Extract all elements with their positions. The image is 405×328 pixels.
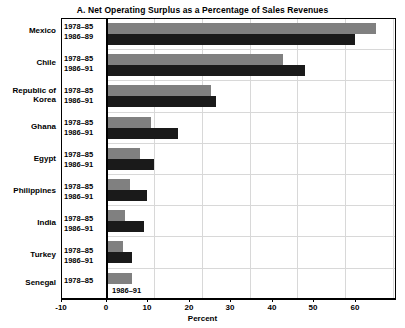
bar-egypt-series2 [106,159,154,170]
chart-title: A. Net Operating Surplus as a Percentage… [0,5,405,15]
x-tick-label-10: 10 [132,303,162,312]
bar-turkey-series1 [106,241,123,252]
category-label-chile: Chile [0,58,56,68]
bar-mexico-series2 [106,34,355,45]
gridline-x-60 [393,19,394,298]
category-label-mexico: Mexico [0,26,56,36]
category-label-turkey: Turkey [0,250,56,260]
category-label-india: India [0,218,56,228]
period-label-ghana-2: 1986–91 [64,128,93,138]
x-tick-label-0: 0 [91,303,121,312]
period-label-senegal-2: 1986–91 [112,286,141,295]
gridline-row-india [106,205,395,206]
x-tick-label--10: -10 [46,303,76,312]
period-label-philippines-1: 1978–85 [64,182,93,192]
x-tick-30 [230,299,231,302]
zero-axis-line [106,18,108,299]
period-label-ghana-1: 1978–85 [64,118,93,128]
period-label-india-2: 1986–91 [64,224,93,234]
period-label-chile-2: 1986–91 [64,64,93,74]
x-tick-60 [355,299,356,302]
period-label-turkey-1: 1978–85 [64,246,93,256]
period-label-egypt-1: 1978–85 [64,150,93,160]
period-label-chile-1: 1978–85 [64,54,93,64]
bar-turkey-series2 [106,252,132,263]
x-tick-label-50: 50 [298,303,328,312]
gridline-row-philippines [106,174,395,175]
plot-area [106,18,396,299]
bar-ghana-series2 [106,128,178,139]
x-tick-50 [313,299,314,302]
period-label-senegal-1: 1978–85 [64,276,93,286]
bar-senegal-series1 [106,273,132,284]
bar-mexico-series1 [106,23,376,34]
bar-india-series1 [106,210,125,221]
category-label-egypt: Egypt [0,154,56,164]
x-axis-title: Percent [0,314,405,323]
gridline-row-turkey [106,236,395,237]
period-label-mexico-1: 1978–85 [64,22,93,32]
period-label-korea-1: 1978–85 [64,86,93,96]
x-tick--10 [61,299,62,302]
bar-republic-of-korea-series2 [106,96,216,107]
bar-chile-series1 [106,54,283,65]
x-tick-label-20: 20 [174,303,204,312]
gridline-row-egypt [106,143,395,144]
period-label-egypt-2: 1986–91 [64,160,93,170]
period-label-philippines-2: 1986–91 [64,192,93,202]
gridline-x-40 [297,19,298,298]
x-axis-line [61,299,396,300]
x-tick-label-60: 60 [340,303,370,312]
category-label-senegal: Senegal [0,278,56,288]
bar-philippines-series2 [106,190,147,201]
category-label-korea-line2: Korea [0,95,56,105]
x-tick-label-30: 30 [215,303,245,312]
bar-egypt-series1 [106,148,140,159]
bar-chile-series2 [106,65,305,76]
period-label-mexico-2: 1986–89 [64,32,93,42]
bar-ghana-series1 [106,117,151,128]
x-tick-0 [106,299,107,302]
chart-container: A. Net Operating Surplus as a Percentage… [0,0,405,328]
x-tick-10 [147,299,148,302]
gridline-row-republic-of-korea [106,80,395,81]
category-label-ghana: Ghana [0,122,56,132]
category-label-philippines: Philippines [0,186,56,196]
gridline-row-chile [106,49,395,50]
period-label-turkey-2: 1986–91 [64,256,93,266]
gridline-x-50 [345,19,346,298]
x-tick-label-40: 40 [257,303,287,312]
bar-republic-of-korea-series1 [106,85,211,96]
bar-philippines-series1 [106,179,130,190]
gridline-row-senegal [106,268,395,269]
bar-india-series2 [106,221,144,232]
x-tick-40 [272,299,273,302]
period-label-korea-2: 1986–91 [64,96,93,106]
x-tick-20 [189,299,190,302]
period-label-india-1: 1978–85 [64,214,93,224]
gridline-row-ghana [106,112,395,113]
